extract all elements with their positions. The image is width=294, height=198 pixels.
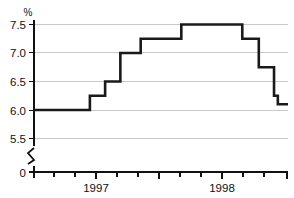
x-tick-label-1997: 1997: [83, 182, 109, 194]
chart-container: % 7.5 7.0 6.5 6.0 5.5 0 1997 1998: [0, 0, 294, 198]
y-tick-label-7-0: 7.0: [10, 47, 26, 59]
gridlines: [33, 25, 288, 139]
y-tick-label-6-5: 6.5: [10, 76, 26, 88]
data-series-step-line: [34, 25, 288, 111]
step-line-chart: % 7.5 7.0 6.5 6.0 5.5 0 1997 1998: [0, 0, 294, 198]
y-tick-label-zero: 0: [20, 167, 26, 179]
y-axis-unit-label: %: [24, 7, 33, 18]
y-tick-label-6-0: 6.0: [10, 105, 26, 117]
axis-break-icon: [28, 148, 34, 164]
y-tick-label-7-5: 7.5: [10, 19, 26, 31]
y-tick-label-5-5: 5.5: [10, 133, 26, 145]
x-tick-label-1998: 1998: [209, 182, 235, 194]
